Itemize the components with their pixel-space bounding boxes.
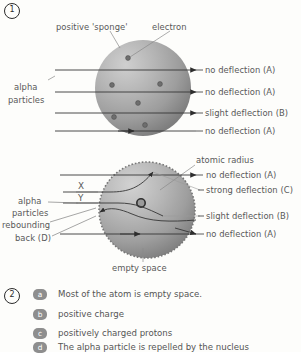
alpha-leaders-b	[48, 202, 96, 236]
label-ray-y: Y	[78, 193, 83, 203]
label-alpha-a-line2: particles	[8, 95, 44, 105]
outcome-b-2: strong deflection (C)	[206, 185, 293, 195]
outcome-a-2: no deflection (A)	[205, 87, 275, 97]
question-1-number: 1	[4, 3, 20, 19]
label-alpha-a-line1: alpha	[14, 82, 37, 92]
answer-badge-d: d	[33, 342, 47, 353]
answer-text-b: positive charge	[58, 309, 124, 320]
answer-badge-b: b	[33, 309, 47, 320]
label-rebounding-line1: rebounding	[2, 220, 50, 230]
label-atomic-radius: atomic radius	[196, 155, 254, 165]
alpha-leaders-a	[48, 76, 55, 80]
answer-badge-a: a	[33, 289, 47, 300]
answer-badge-c: c	[33, 328, 47, 339]
sphere-plum-pudding	[95, 40, 191, 136]
label-alpha-b-line1: alpha	[18, 196, 41, 206]
outcome-b-4: no deflection (A)	[206, 229, 276, 239]
answer-text-a: Most of the atom is empty space.	[58, 289, 202, 300]
label-rebounding-line2: back (D)	[15, 233, 51, 243]
outcome-a-1: no deflection (A)	[205, 65, 275, 75]
label-positive-sponge: positive 'sponge'	[56, 22, 128, 32]
outcome-b-1: no deflection (A)	[206, 170, 276, 180]
outcome-b-3: slight deflection (B)	[206, 211, 289, 221]
label-dashes-a	[196, 70, 203, 131]
question-2-number: 2	[4, 288, 20, 304]
outcome-a-3: slight deflection (B)	[205, 108, 288, 118]
label-dashes-b	[196, 175, 204, 234]
label-electron: electron	[152, 22, 187, 32]
label-empty-space: empty space	[112, 263, 167, 273]
answer-text-d: The alpha particle is repelled by the nu…	[58, 342, 249, 353]
label-alpha-b-line2: particles	[12, 208, 48, 218]
answer-text-c: positively charged protons	[58, 328, 172, 339]
sphere-nuclear-model	[99, 162, 195, 258]
outcome-a-4: no deflection (A)	[205, 126, 275, 136]
label-ray-x: X	[78, 181, 84, 191]
